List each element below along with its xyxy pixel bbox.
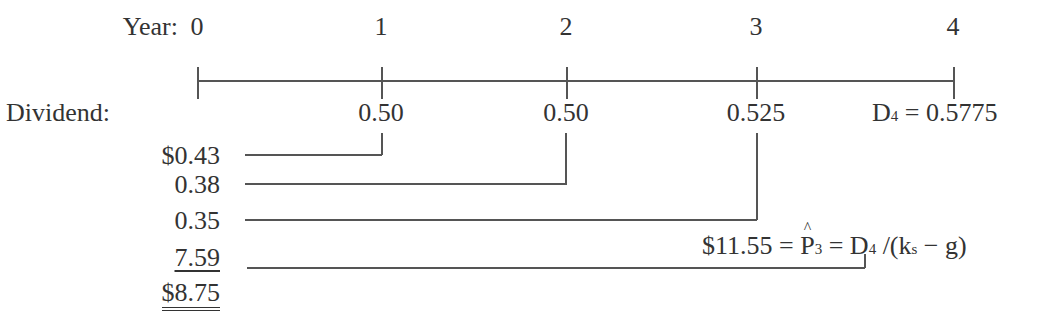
year-1: 1 xyxy=(375,14,388,40)
pv-2: 0.38 xyxy=(120,172,220,198)
d-subscript: 4 xyxy=(869,241,877,257)
connector-4-h xyxy=(247,267,865,269)
d4-subscript: 4 xyxy=(891,108,899,124)
dividend-4: D4 = 0.5775 xyxy=(872,100,997,126)
tick-2 xyxy=(566,67,568,99)
connector-1-v xyxy=(381,133,383,155)
year-3: 3 xyxy=(750,14,763,40)
formula-rest: /(k xyxy=(876,231,911,260)
connector-2-v xyxy=(565,133,567,184)
pv-3: 0.35 xyxy=(120,208,220,234)
year-label: Year: xyxy=(40,14,178,40)
terminal-value: $11.55 = xyxy=(702,231,794,260)
tick-0 xyxy=(197,67,199,99)
year-4: 4 xyxy=(947,14,960,40)
pv-1: $0.43 xyxy=(120,143,220,169)
equals-d: = D xyxy=(822,231,868,260)
pv-4: 7.59 xyxy=(120,245,220,271)
formula-end: − g) xyxy=(917,231,966,260)
terminal-price-formula: $11.55 = P3 = D4 /(ks − g) xyxy=(702,233,967,259)
tick-3 xyxy=(756,67,758,99)
dividend-2: 0.50 xyxy=(543,100,589,126)
d4-symbol: D xyxy=(872,98,891,127)
d4-value: = 0.5775 xyxy=(905,98,998,127)
dividend-3: 0.525 xyxy=(727,100,786,126)
dividend-label: Dividend: xyxy=(6,100,110,126)
pv-total: $8.75 xyxy=(120,280,220,306)
year-0: 0 xyxy=(191,14,204,40)
tick-1 xyxy=(381,67,383,99)
tick-4 xyxy=(953,67,955,99)
year-2: 2 xyxy=(560,14,573,40)
connector-3-v xyxy=(756,133,758,220)
total-value: $8.75 xyxy=(162,278,221,311)
dividend-1: 0.50 xyxy=(358,100,404,126)
pv-4-value: 7.59 xyxy=(175,243,221,272)
connector-2-h xyxy=(245,183,567,185)
connector-1-h xyxy=(245,154,382,156)
timeline-axis xyxy=(197,80,954,82)
connector-3-h xyxy=(245,219,757,221)
p-hat-symbol: P xyxy=(800,233,814,259)
